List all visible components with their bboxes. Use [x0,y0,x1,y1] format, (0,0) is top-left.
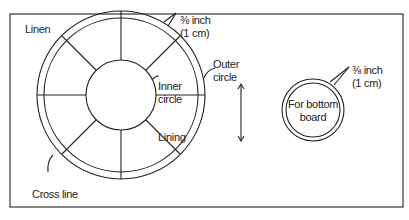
seam-leader-2 [168,13,176,26]
seam-right-leader-1 [330,67,349,82]
double-arrow-icon [238,84,244,141]
linen-label: Linen [25,23,50,35]
outer-circle-label-2: circle [213,71,237,83]
cross-line-label: Cross line [32,188,78,200]
seam-allowance-label: ⅜ inch [180,14,211,26]
lining-label: Lining [158,131,186,143]
inner-circle-label-2: circle [158,93,182,105]
inner-circle [86,60,156,130]
bottom-board-outer [282,79,344,141]
bottom-board-label-2: board [286,111,340,123]
bottom-board-label: For bottom [286,98,340,110]
inner-circle-label: Inner [158,80,182,92]
outer-circle-label: Outer [213,58,239,70]
cross-line-leader [48,155,53,172]
seam-right-leader-2 [334,67,349,85]
bottom-board-inner [286,83,340,137]
bottom-seam-allowance-metric-label: (1 cm) [352,77,381,89]
seam-allowance-metric-label: (1 cm) [180,27,209,39]
bottom-seam-allowance-label: ⅜ inch [352,64,383,76]
